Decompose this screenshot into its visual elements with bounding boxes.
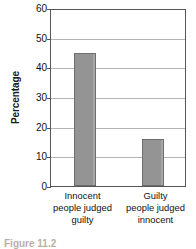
figure-container: Percentage 0102030405060 Innocentpeople … <box>0 0 196 249</box>
y-tick-label: 10 <box>28 152 47 162</box>
x-category-label: Innocentpeople judgedguilty <box>46 190 119 227</box>
y-tick-mark <box>47 157 51 158</box>
y-tick-label: 50 <box>28 34 47 44</box>
y-tick-mark <box>47 98 51 99</box>
y-tick-mark <box>47 9 51 10</box>
y-tick-mark <box>47 187 51 188</box>
gridline <box>51 128 185 129</box>
x-category-label-line: innocent <box>119 214 192 226</box>
bar <box>74 53 96 187</box>
x-category-label-line: people judged <box>119 202 192 214</box>
x-category-label-line: people judged <box>46 202 119 214</box>
y-axis-title: Percentage <box>10 58 21 138</box>
plot-area <box>50 9 186 187</box>
bar <box>142 139 164 186</box>
y-tick-mark <box>47 128 51 129</box>
x-category-label: Guiltypeople judgedinnocent <box>119 190 192 227</box>
y-tick-mark <box>47 68 51 69</box>
y-tick-label: 60 <box>28 4 47 14</box>
y-tick-label: 20 <box>28 123 47 133</box>
x-category-label-line: Guilty <box>119 190 192 202</box>
x-category-label-line: guilty <box>46 214 119 226</box>
figure-caption: Figure 11.2 <box>4 238 56 249</box>
y-tick-mark <box>47 39 51 40</box>
y-tick-label: 30 <box>28 93 47 103</box>
gridline <box>51 98 185 99</box>
gridline <box>51 157 185 158</box>
x-category-label-line: Innocent <box>46 190 119 202</box>
x-axis-category-labels: Innocentpeople judgedguiltyGuiltypeople … <box>46 190 192 227</box>
y-tick-label: 40 <box>28 63 47 73</box>
y-axis-tick-labels: 0102030405060 <box>28 9 47 187</box>
y-tick-label: 0 <box>28 182 47 192</box>
gridline <box>51 68 185 69</box>
gridline <box>51 39 185 40</box>
